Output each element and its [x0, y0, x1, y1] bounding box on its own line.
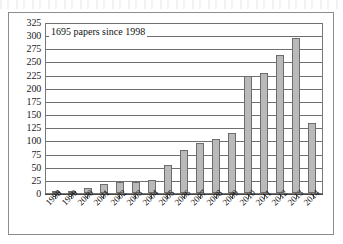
x-label-slot: 2003	[128, 199, 144, 233]
bar-slot	[144, 23, 160, 193]
y-tick-label: 150	[15, 110, 41, 120]
bar-slot	[160, 23, 176, 193]
bar-slot	[96, 23, 112, 193]
x-label-slot: 2006	[176, 199, 192, 233]
bar-series	[46, 23, 322, 193]
y-tick-label: 0	[15, 189, 41, 199]
y-tick-label: 50	[15, 163, 41, 173]
y-tick-label: 125	[15, 123, 41, 133]
x-label-slot: 2001	[95, 199, 111, 233]
bar-slot	[176, 23, 192, 193]
x-label-slot: 2002	[112, 199, 128, 233]
bar-slot	[304, 23, 320, 193]
chart-area: 0255075100125150175200225250275300325 16…	[9, 13, 333, 234]
x-label-slot: 2004	[144, 199, 160, 233]
x-label-slot: 2008	[208, 199, 224, 233]
x-axis-tick-labels: 1998199920002001200220032004200520062007…	[45, 199, 323, 233]
x-label-slot: 2010	[241, 199, 257, 233]
x-label-slot: 1998	[47, 199, 63, 233]
bar-slot	[128, 23, 144, 193]
bar-slot	[272, 23, 288, 193]
x-label-slot: 2000	[79, 199, 95, 233]
bar-slot	[288, 23, 304, 193]
y-tick-label: 175	[15, 97, 41, 107]
y-tick-label: 200	[15, 84, 41, 94]
bar-slot	[64, 23, 80, 193]
scan-artifact-band	[0, 0, 343, 9]
x-label-slot: 2013	[289, 199, 305, 233]
bar-slot	[208, 23, 224, 193]
y-tick-label: 25	[15, 176, 41, 186]
chart-figure: 0255075100125150175200225250275300325 16…	[8, 12, 334, 235]
bar	[212, 139, 220, 193]
bar-slot	[240, 23, 256, 193]
y-tick-label: 250	[15, 57, 41, 67]
y-axis-tick-labels: 0255075100125150175200225250275300325	[13, 13, 41, 234]
bar	[180, 150, 188, 193]
bar	[292, 38, 300, 193]
y-tick-label: 325	[15, 18, 41, 28]
x-label-slot: 2007	[192, 199, 208, 233]
y-tick-label: 75	[15, 150, 41, 160]
x-label-slot: 2009	[224, 199, 240, 233]
bar	[260, 73, 268, 193]
y-tick-label: 225	[15, 71, 41, 81]
x-label-slot: 1999	[63, 199, 79, 233]
x-label-slot: 2005	[160, 199, 176, 233]
y-tick-label: 275	[15, 44, 41, 54]
bar	[196, 143, 204, 194]
bar	[244, 76, 252, 193]
bar-slot	[192, 23, 208, 193]
bar-slot	[256, 23, 272, 193]
chart-annotation: 1695 papers since 1998	[49, 26, 147, 38]
bar-slot	[48, 23, 64, 193]
x-label-slot: 2014	[305, 199, 321, 233]
bar	[228, 133, 236, 194]
bar	[276, 55, 284, 193]
bar	[308, 123, 316, 194]
x-label-slot: 2012	[273, 199, 289, 233]
x-label-slot: 2011	[257, 199, 273, 233]
y-tick-label: 300	[15, 31, 41, 41]
bar-slot	[224, 23, 240, 193]
bar-slot	[112, 23, 128, 193]
plot-area	[45, 23, 323, 194]
y-tick-label: 100	[15, 136, 41, 146]
bar-slot	[80, 23, 96, 193]
